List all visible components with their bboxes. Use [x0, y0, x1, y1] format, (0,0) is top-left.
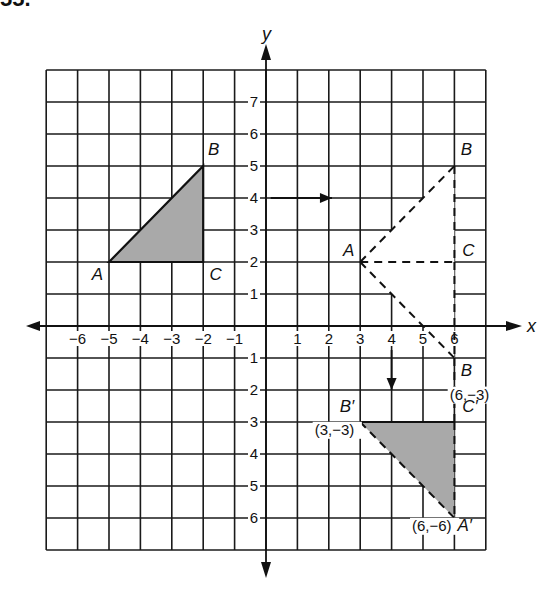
x-tick-label: 4 — [387, 330, 395, 347]
translation-arrow-head-icon — [320, 193, 332, 203]
y-tick-label: 4 — [250, 445, 258, 462]
reflection-arrow-head-icon — [387, 378, 397, 390]
y-tick-label: 1 — [250, 349, 258, 366]
image-vertex-label: A′ — [457, 516, 473, 535]
transformation-arrows — [271, 193, 397, 390]
x-axis-left-arrow-icon — [26, 321, 40, 331]
y-tick-label: 7 — [250, 93, 258, 110]
image-vertex-label: B′ — [340, 397, 355, 416]
image-vertex-label: C′ — [462, 397, 478, 416]
y-tick-label: 3 — [250, 413, 258, 430]
x-tick-label: −2 — [195, 330, 212, 347]
translated-vertex-label: A — [342, 241, 354, 260]
y-tick-label: 3 — [250, 221, 258, 238]
x-tick-label: −3 — [163, 330, 180, 347]
y-tick-label: 5 — [250, 477, 258, 494]
image-vertex-label: (3,−3) — [315, 421, 355, 438]
x-tick-label: 5 — [419, 330, 427, 347]
translated-vertex-label: C — [462, 241, 475, 260]
y-tick-label: 6 — [250, 125, 258, 142]
y-axis-down-arrow-icon — [261, 562, 271, 578]
original-vertex-label: B — [208, 140, 219, 159]
x-axis-label: x — [526, 316, 537, 336]
x-tick-label: −4 — [132, 330, 149, 347]
x-tick-label: −6 — [69, 330, 86, 347]
original-vertex-label: A — [91, 265, 103, 284]
y-tick-label: 5 — [250, 157, 258, 174]
x-tick-label: 3 — [356, 330, 364, 347]
x-tick-label: −1 — [226, 330, 243, 347]
y-tick-label: 1 — [250, 285, 258, 302]
y-axis-label: y — [260, 24, 272, 44]
translated-vertex-label: B — [461, 140, 472, 159]
x-tick-label: 2 — [325, 330, 333, 347]
coordinate-plane-diagram: xy −6−5−4−3−2−11234567654321123456 ABCAB… — [0, 0, 539, 605]
x-tick-label: −5 — [100, 330, 117, 347]
y-axis-up-arrow-icon — [261, 44, 271, 60]
axes: xy — [26, 24, 537, 578]
y-tick-label: 6 — [250, 509, 258, 526]
y-tick-label: 4 — [250, 189, 258, 206]
image-vertex-label: (6,−6) — [412, 517, 452, 534]
x-tick-label: 1 — [293, 330, 301, 347]
original-vertex-label: C — [209, 265, 222, 284]
y-tick-label: 2 — [250, 253, 258, 270]
y-tick-label: 2 — [250, 381, 258, 398]
x-axis-right-arrow-icon — [506, 321, 522, 331]
reflected-vertex-label: B — [461, 361, 472, 380]
